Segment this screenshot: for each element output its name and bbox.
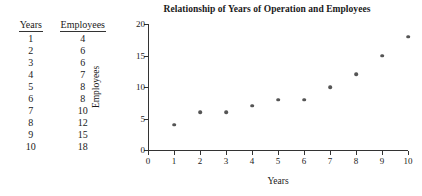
cell-employees: 18 [52,141,114,153]
column-header-employees-label: Employees [60,20,106,32]
data-point [328,85,332,89]
x-tick-label: 0 [146,157,151,166]
y-tick-label: 10 [136,83,148,92]
x-axis-title: Years [148,176,408,186]
x-tick-mark [356,151,357,155]
x-tick-label: 6 [302,157,307,166]
cell-years: 2 [10,45,52,57]
data-point [198,110,202,114]
table-header: Years Employees [10,20,114,33]
cell-employees: 12 [52,117,114,129]
x-tick-label: 10 [404,157,413,166]
cell-years: 6 [10,93,52,105]
cell-years: 10 [10,141,52,153]
y-axis-title: Employees [91,66,101,108]
y-tick-label: 5 [141,114,149,123]
cell-employees: 10 [52,105,114,117]
table-row: 1 4 [10,33,114,45]
x-tick-label: 1 [172,157,177,166]
x-tick-label: 2 [198,157,203,166]
x-tick-mark [226,151,227,155]
x-tick-mark [252,151,253,155]
scatter-chart: Relationship of Years of Operation and E… [112,0,422,196]
chart-title: Relationship of Years of Operation and E… [112,4,422,14]
cell-employees: 7 [52,69,114,81]
cell-years: 7 [10,105,52,117]
y-tick-label: 20 [136,20,148,29]
x-tick-mark [174,151,175,155]
data-point [172,123,176,127]
x-tick-label: 8 [354,157,359,166]
x-tick-mark [304,151,305,155]
data-point [302,98,306,102]
y-axis-line [148,24,149,151]
column-header-years-label: Years [19,20,43,32]
cell-years: 3 [10,57,52,69]
table-row: 2 6 [10,45,114,57]
cell-employees: 6 [52,57,114,69]
data-point [354,73,358,77]
cell-employees: 4 [52,33,114,45]
x-tick-mark [200,151,201,155]
cell-years: 8 [10,117,52,129]
data-point [250,104,254,108]
data-point [276,98,280,102]
x-tick-label: 5 [276,157,281,166]
table-row: 8 12 [10,117,114,129]
cell-employees: 15 [52,129,114,141]
cell-employees: 8 [52,81,114,93]
y-tick-label: 15 [136,51,148,60]
table-row: 10 18 [10,141,114,153]
cell-years: 4 [10,69,52,81]
x-tick-label: 7 [328,157,333,166]
data-point [380,54,384,58]
cell-employees: 6 [52,45,114,57]
x-tick-mark [408,151,409,155]
cell-years: 1 [10,33,52,45]
x-tick-mark [278,151,279,155]
table-header-row: Years Employees [10,20,114,33]
x-tick-label: 4 [250,157,255,166]
data-point [406,35,410,39]
x-tick-mark [330,151,331,155]
x-tick-mark [382,151,383,155]
column-header-years: Years [10,20,52,33]
y-tick-label: 0 [141,146,149,155]
column-header-employees: Employees [52,20,114,33]
cell-years: 5 [10,81,52,93]
x-tick-mark [148,151,149,155]
data-point [224,110,228,114]
x-tick-label: 3 [224,157,229,166]
cell-employees: 8 [52,93,114,105]
cell-years: 9 [10,129,52,141]
x-tick-label: 9 [380,157,385,166]
table-row: 9 15 [10,129,114,141]
